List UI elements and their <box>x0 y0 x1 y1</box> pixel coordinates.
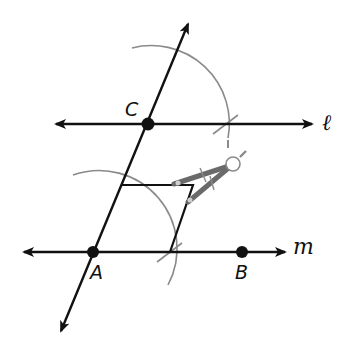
construction-canvas <box>0 0 355 354</box>
label-point-C: C <box>125 100 138 119</box>
label-line-m: m <box>293 236 314 258</box>
label-point-A: A <box>90 263 103 282</box>
compass-icon <box>174 140 246 203</box>
point-C <box>142 118 155 131</box>
label-line-l: ℓ <box>322 112 331 134</box>
point-B <box>236 246 248 258</box>
arc-from-A <box>73 171 177 285</box>
transversal-AC <box>61 24 188 331</box>
angle-copy-segments <box>121 185 193 252</box>
label-point-B: B <box>235 263 248 282</box>
point-A <box>87 246 99 258</box>
parallel-line-construction-diagram: C A B ℓ m <box>0 0 355 354</box>
